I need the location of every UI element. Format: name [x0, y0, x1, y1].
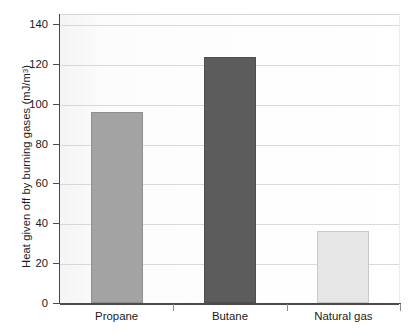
y-axis-tick-label-120: 120 [8, 58, 48, 70]
y-axis-tick-140 [53, 24, 60, 25]
y-axis-tick-20 [53, 263, 60, 264]
x-axis-label-propane: Propane [57, 310, 177, 322]
y-axis-tick-40 [53, 223, 60, 224]
y-axis-tick-120 [53, 64, 60, 65]
bars-group [60, 14, 400, 303]
bar-butane [204, 57, 256, 303]
x-axis-label-natural-gas: Natural gas [283, 310, 403, 322]
y-axis-tick-label-100: 100 [8, 98, 48, 110]
bar-chart: Heat given off by burning gases (mJ/m3) … [0, 0, 418, 333]
y-axis-tick-80 [53, 144, 60, 145]
y-axis-tick-label-20: 20 [8, 257, 48, 269]
y-axis-tick-label-140: 140 [8, 18, 48, 30]
y-axis-tick-label-80: 80 [8, 138, 48, 150]
x-axis-label-butane: Butane [170, 310, 290, 322]
y-axis-tick-label-60: 60 [8, 177, 48, 189]
y-axis-line [59, 14, 60, 304]
y-axis-title: Heat given off by burning gases (mJ/m3) [13, 0, 39, 333]
bar-propane [91, 112, 143, 303]
x-axis-line [59, 303, 401, 304]
y-axis-tick-100 [53, 104, 60, 105]
y-axis-tick-label-0: 0 [8, 297, 48, 309]
bar-natural-gas [317, 231, 369, 303]
gridline-0 [60, 304, 399, 305]
y-axis-tick-60 [53, 183, 60, 184]
y-axis-tick-label-40: 40 [8, 217, 48, 229]
